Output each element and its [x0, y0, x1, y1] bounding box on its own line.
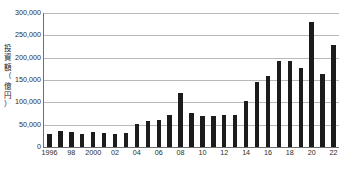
bar: [233, 115, 237, 147]
bar: [288, 61, 292, 147]
bar: [80, 134, 84, 147]
bar: [299, 68, 303, 147]
y-axis-tick-label: 200,000: [1, 54, 41, 61]
bar: [331, 45, 335, 147]
bar: [157, 120, 161, 147]
y-axis-tick-label: 250,000: [1, 32, 41, 39]
y-axis-tick-label: 300,000: [1, 9, 41, 16]
bar: [178, 93, 182, 147]
bar: [167, 115, 171, 147]
bar: [189, 113, 193, 147]
bar: [277, 61, 281, 147]
bar: [266, 76, 270, 147]
x-axis-tick-label: 22: [321, 149, 342, 157]
bar: [146, 121, 150, 147]
investment-bar-chart: 投資額（億円） 050,000100,000150,000200,000250,…: [0, 0, 342, 179]
bar: [320, 74, 324, 147]
bar: [135, 124, 139, 147]
bar: [309, 22, 313, 148]
bar: [244, 101, 248, 147]
bar: [113, 134, 117, 147]
plot-area: [44, 13, 339, 147]
bars-series: [44, 13, 339, 147]
y-axis-tick-label: 100,000: [1, 99, 41, 106]
bar: [102, 133, 106, 147]
bar: [211, 116, 215, 147]
x-axis-tick-labels: 19969820000204060810121416182022: [44, 149, 339, 163]
bar: [47, 134, 51, 147]
bar: [255, 82, 259, 147]
y-axis-tick-label: 50,000: [1, 121, 41, 128]
y-axis-tick-labels: 050,000100,000150,000200,000250,000300,0…: [0, 13, 41, 147]
bar: [222, 115, 226, 147]
y-axis-tick-label: 150,000: [1, 76, 41, 83]
bar: [69, 132, 73, 147]
bar: [124, 133, 128, 147]
bar: [58, 131, 62, 147]
bar: [200, 116, 204, 147]
bar: [91, 132, 95, 147]
y-axis-tick-label: 0: [1, 143, 41, 150]
